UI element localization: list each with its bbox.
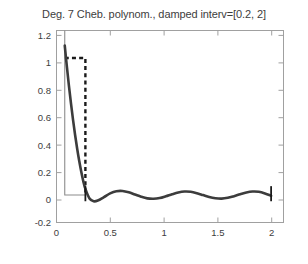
y-tick-label: 0.6 — [38, 112, 51, 123]
y-tick-labels: 1.2 1 0.8 0.6 0.4 0.2 0 -0.2 — [35, 30, 51, 228]
y-tick-label: 0.8 — [38, 85, 51, 96]
x-tick-label: 0 — [54, 227, 59, 238]
y-tick-label: 1 — [46, 57, 51, 68]
y-tick-label: -0.2 — [35, 217, 51, 228]
y-tick-label: 0.2 — [38, 167, 51, 178]
x-tick-label: 2 — [269, 227, 274, 238]
x-tick-label: 1 — [161, 227, 166, 238]
y-tick-label: 0.4 — [38, 140, 51, 151]
x-tick-label: 1.5 — [211, 227, 224, 238]
chart-plot-area: 1.2 1 0.8 0.6 0.4 0.2 0 -0.2 0 0.5 1 1.5… — [0, 0, 308, 264]
chart-figure: Deg. 7 Cheb. polynom., damped interv=[0.… — [0, 0, 308, 264]
x-tick-label: 0.5 — [104, 227, 117, 238]
x-tick-labels: 0 0.5 1 1.5 2 — [54, 227, 274, 238]
y-tick-label: 1.2 — [38, 30, 51, 41]
y-tick-label: 0 — [46, 194, 51, 205]
